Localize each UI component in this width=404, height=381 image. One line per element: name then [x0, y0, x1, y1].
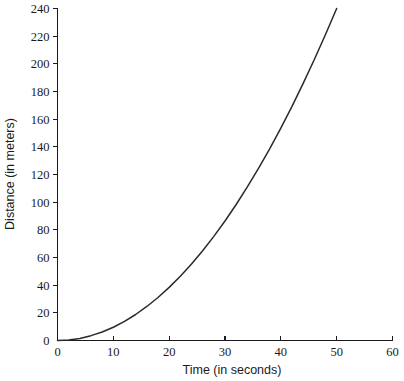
y-tick-label: 0 — [43, 334, 49, 348]
x-tick-label: 30 — [219, 345, 232, 359]
chart-container: 020406080100120140160180200220240 010203… — [0, 0, 404, 381]
y-tick-label: 220 — [31, 30, 50, 44]
y-tick-label: 100 — [31, 196, 50, 210]
x-tick-label: 50 — [330, 345, 343, 359]
y-tick-label: 240 — [31, 2, 50, 16]
y-tick-label: 180 — [31, 85, 50, 99]
y-tick-label: 160 — [31, 113, 50, 127]
x-tick-label: 20 — [163, 345, 176, 359]
y-tick-label: 200 — [31, 57, 50, 71]
y-tick-label: 80 — [37, 223, 50, 237]
distance-vs-time-line-chart: 020406080100120140160180200220240 010203… — [0, 0, 404, 381]
x-tick-label: 0 — [54, 345, 60, 359]
y-tick-label: 60 — [37, 251, 50, 265]
x-tick-label: 40 — [275, 345, 288, 359]
chart-background — [0, 0, 404, 381]
y-tick-label: 20 — [37, 306, 50, 320]
y-axis-title: Distance (in meters) — [3, 118, 17, 230]
y-tick-label: 140 — [31, 140, 50, 154]
y-tick-label: 40 — [37, 279, 50, 293]
x-tick-label: 60 — [386, 345, 399, 359]
x-axis-title: Time (in seconds) — [183, 363, 282, 377]
x-tick-label: 10 — [107, 345, 120, 359]
y-tick-label: 120 — [31, 168, 50, 182]
